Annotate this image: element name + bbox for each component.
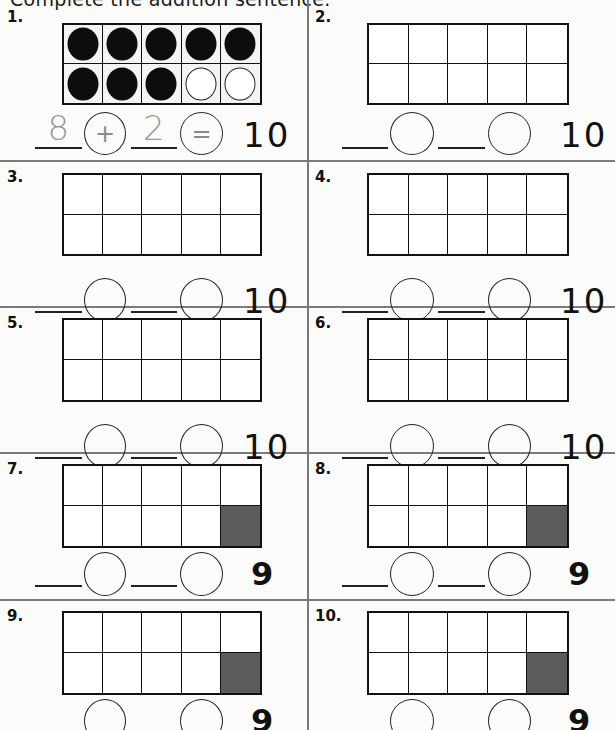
ten-frame-cell[interactable]: [527, 320, 567, 360]
ten-frame-cell[interactable]: [527, 25, 567, 64]
ten-frame-cell[interactable]: [182, 64, 221, 103]
ten-frame-cell[interactable]: [64, 466, 103, 506]
ten-frame-cell[interactable]: [448, 506, 488, 546]
operator-circle[interactable]: [390, 112, 434, 155]
ten-frame-cell[interactable]: [142, 25, 181, 64]
operator-circle[interactable]: [84, 552, 126, 596]
ten-frame-cell[interactable]: [488, 506, 528, 546]
addend2-blank[interactable]: [438, 147, 485, 149]
ten-frame-cell[interactable]: [409, 175, 449, 215]
ten-frame-cell[interactable]: [488, 215, 528, 255]
ten-frame-cell[interactable]: [527, 175, 567, 215]
ten-frame-cell[interactable]: [182, 360, 221, 400]
ten-frame-cell[interactable]: [448, 215, 488, 255]
ten-frame-cell[interactable]: [488, 360, 528, 400]
ten-frame-cell[interactable]: [182, 320, 221, 360]
ten-frame-cell[interactable]: [142, 653, 181, 693]
equals-circle[interactable]: [488, 112, 531, 155]
ten-frame-cell[interactable]: [142, 506, 181, 546]
operator-circle[interactable]: [390, 552, 434, 596]
ten-frame-cell[interactable]: [64, 25, 103, 64]
ten-frame-cell[interactable]: [103, 613, 142, 653]
addend1-blank[interactable]: [342, 147, 388, 149]
ten-frame-cell[interactable]: [221, 64, 260, 103]
ten-frame-cell[interactable]: [448, 320, 488, 360]
ten-frame-cell[interactable]: [527, 466, 567, 506]
ten-frame-cell[interactable]: [142, 613, 181, 653]
ten-frame-cell[interactable]: [369, 613, 409, 653]
ten-frame-cell[interactable]: [369, 64, 409, 103]
ten-frame-cell[interactable]: [103, 360, 142, 400]
equals-circle[interactable]: [180, 699, 223, 730]
ten-frame-cell[interactable]: [488, 25, 528, 64]
ten-frame-cell[interactable]: [221, 175, 260, 215]
ten-frame-cell[interactable]: [369, 215, 409, 255]
ten-frame-cell[interactable]: [64, 506, 103, 546]
ten-frame-cell[interactable]: [182, 25, 221, 64]
ten-frame-cell[interactable]: [182, 175, 221, 215]
ten-frame-cell[interactable]: [64, 64, 103, 103]
ten-frame-cell[interactable]: [488, 64, 528, 103]
ten-frame-cell-shaded[interactable]: [527, 653, 567, 693]
ten-frame-cell[interactable]: [448, 64, 488, 103]
ten-frame-cell[interactable]: [221, 320, 260, 360]
ten-frame-cell[interactable]: [103, 25, 142, 64]
addend1-blank[interactable]: [342, 585, 388, 587]
ten-frame-cell[interactable]: [369, 506, 409, 546]
equals-circle[interactable]: [488, 552, 531, 596]
ten-frame-cell[interactable]: [142, 466, 181, 506]
ten-frame-cell[interactable]: [488, 466, 528, 506]
ten-frame-cell[interactable]: [64, 320, 103, 360]
ten-frame-cell-shaded[interactable]: [527, 506, 567, 546]
ten-frame-cell[interactable]: [409, 613, 449, 653]
ten-frame-cell[interactable]: [488, 320, 528, 360]
ten-frame-cell[interactable]: [488, 653, 528, 693]
ten-frame-cell[interactable]: [369, 360, 409, 400]
ten-frame-cell[interactable]: [182, 613, 221, 653]
ten-frame-cell[interactable]: [488, 613, 528, 653]
addend2-blank[interactable]: [131, 585, 177, 587]
ten-frame-cell[interactable]: [369, 466, 409, 506]
ten-frame-cell[interactable]: [103, 653, 142, 693]
ten-frame-cell-shaded[interactable]: [221, 506, 260, 546]
addend2-blank[interactable]: [438, 585, 485, 587]
ten-frame-cell[interactable]: [182, 466, 221, 506]
ten-frame-cell[interactable]: [409, 506, 449, 546]
ten-frame-cell[interactable]: [64, 175, 103, 215]
ten-frame-cell[interactable]: [448, 613, 488, 653]
ten-frame-cell[interactable]: [409, 320, 449, 360]
ten-frame-cell[interactable]: [409, 466, 449, 506]
ten-frame-cell[interactable]: [527, 613, 567, 653]
ten-frame-cell[interactable]: [64, 360, 103, 400]
ten-frame-cell[interactable]: [409, 64, 449, 103]
ten-frame-cell[interactable]: [221, 466, 260, 506]
ten-frame-cell[interactable]: [182, 653, 221, 693]
equals-circle[interactable]: [488, 699, 531, 730]
ten-frame-cell[interactable]: [182, 506, 221, 546]
ten-frame-cell[interactable]: [142, 64, 181, 103]
ten-frame-cell[interactable]: [448, 360, 488, 400]
ten-frame-cell[interactable]: [369, 25, 409, 64]
ten-frame-cell-shaded[interactable]: [221, 653, 260, 693]
ten-frame-cell[interactable]: [64, 653, 103, 693]
ten-frame-cell[interactable]: [142, 215, 181, 255]
ten-frame-cell[interactable]: [448, 25, 488, 64]
equals-circle[interactable]: =: [180, 112, 223, 155]
ten-frame-cell[interactable]: [448, 175, 488, 215]
operator-circle[interactable]: +: [84, 112, 126, 155]
ten-frame-cell[interactable]: [527, 64, 567, 103]
ten-frame-cell[interactable]: [64, 613, 103, 653]
operator-circle[interactable]: [84, 699, 126, 730]
ten-frame-cell[interactable]: [64, 215, 103, 255]
ten-frame-cell[interactable]: [103, 175, 142, 215]
ten-frame-cell[interactable]: [142, 360, 181, 400]
ten-frame-cell[interactable]: [369, 653, 409, 693]
ten-frame-cell[interactable]: [527, 215, 567, 255]
ten-frame-cell[interactable]: [103, 215, 142, 255]
addend1-blank[interactable]: [35, 585, 82, 587]
ten-frame-cell[interactable]: [527, 360, 567, 400]
ten-frame-cell[interactable]: [448, 653, 488, 693]
ten-frame-cell[interactable]: [221, 613, 260, 653]
ten-frame-cell[interactable]: [488, 175, 528, 215]
equals-circle[interactable]: [180, 552, 223, 596]
